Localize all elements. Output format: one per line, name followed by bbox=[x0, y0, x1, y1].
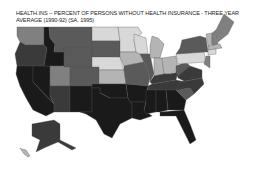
state-nm bbox=[70, 86, 92, 112]
state-oh bbox=[162, 56, 178, 74]
state-me bbox=[216, 14, 234, 42]
state-fl bbox=[160, 110, 196, 144]
state-or bbox=[15, 42, 47, 66]
state-co bbox=[70, 67, 99, 86]
us-choropleth-map bbox=[0, 0, 255, 170]
state-hi bbox=[20, 148, 30, 157]
state-wa bbox=[17, 27, 44, 45]
state-mi bbox=[150, 36, 164, 58]
state-ak bbox=[32, 120, 76, 152]
state-wi bbox=[134, 34, 148, 54]
state-sd bbox=[92, 41, 120, 57]
state-ar bbox=[126, 84, 148, 102]
state-nd bbox=[92, 27, 120, 41]
state-ks bbox=[99, 70, 126, 84]
state-ct bbox=[208, 49, 216, 55]
state-wy bbox=[64, 48, 92, 67]
state-ut bbox=[50, 66, 70, 86]
state-ny bbox=[176, 36, 208, 54]
